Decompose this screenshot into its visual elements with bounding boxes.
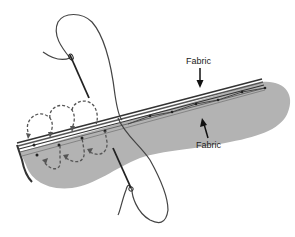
- label-arrow-top: [197, 68, 204, 88]
- label-bottom-fabric: Fabric: [196, 141, 221, 150]
- label-top-fabric: Fabric: [186, 57, 211, 66]
- top-thread: [43, 15, 122, 121]
- top-needle-icon: [68, 53, 89, 98]
- sewing-diagram: [0, 0, 295, 237]
